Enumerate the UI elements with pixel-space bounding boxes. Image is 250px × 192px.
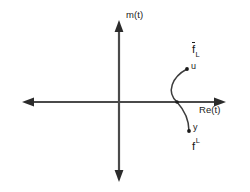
arc-curve xyxy=(171,69,189,131)
complex-plane-diagram: m(t) Re(t) u y fL fL xyxy=(0,0,250,192)
imaginary-axis-label-text: m(t) xyxy=(126,9,143,20)
point-label-u: u xyxy=(191,62,196,71)
upper-curve-label-base: f xyxy=(192,42,195,55)
imaginary-axis-arrow-up-icon xyxy=(115,20,124,32)
lower-curve-label: fL xyxy=(192,139,199,152)
real-axis-arrow-left-icon xyxy=(22,98,34,107)
arc-start-point-u xyxy=(185,67,189,71)
imaginary-axis-label: m(t) xyxy=(126,10,143,20)
arc-path xyxy=(171,67,191,133)
diagram-canvas xyxy=(0,0,250,192)
lower-curve-label-superscript: L xyxy=(196,136,200,145)
upper-curve-label-subscript: L xyxy=(196,50,200,59)
arc-axis-crossing-point xyxy=(175,100,179,104)
real-axis-label: Re(t) xyxy=(199,105,221,115)
lower-curve-label-base: f xyxy=(192,140,195,152)
point-label-y: y xyxy=(193,123,198,132)
imaginary-axis-arrow-down-icon xyxy=(115,170,124,182)
upper-curve-label: fL xyxy=(192,42,199,57)
arc-end-point-y xyxy=(187,129,191,133)
real-axis xyxy=(22,98,226,107)
